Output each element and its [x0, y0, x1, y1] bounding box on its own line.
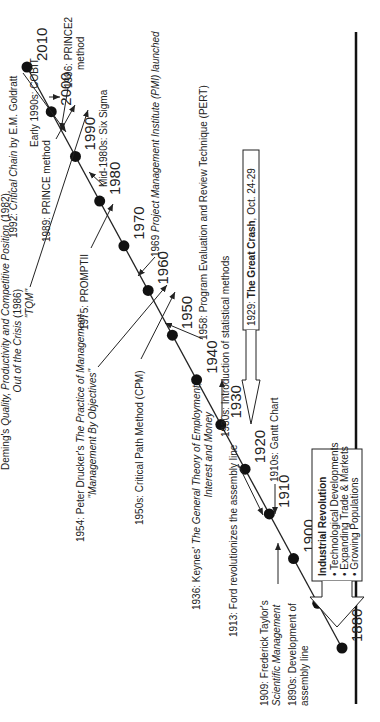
svg-text:1930s: Introduction of statist: 1930s: Introduction of statistical metho…: [220, 256, 231, 437]
timeline-dot-1980: [94, 196, 105, 207]
timeline-dot-1960: [143, 285, 154, 296]
event-taylor: 1909: Frederick Taylor's Scientific Mana…: [259, 543, 282, 706]
event-great-crash: 1929: The Great Crash, Oct. 24-29: [242, 150, 260, 424]
timeline-dot-1880: [337, 643, 348, 654]
svg-text:1909: Frederick Taylor's: 1909: Frederick Taylor's: [259, 600, 270, 706]
timeline-dot-1970: [118, 240, 129, 251]
event-promptii: 1975: PROMPTII: [79, 204, 113, 330]
svg-text:1913: Ford revolutionizes the: 1913: Ford revolutionizes the assembly l…: [228, 444, 239, 637]
svg-text:Early 1990s: COBIT: Early 1990s: COBIT: [29, 58, 40, 147]
svg-text:Mid-1980s: Six Sigma: Mid-1980s: Six Sigma: [98, 89, 109, 187]
svg-text:"TQM": "TQM": [24, 289, 35, 319]
timeline-dot-1950: [167, 330, 178, 341]
svg-text:1954: Peter Drucker's The Prac: 1954: Peter Drucker's The Practice of Ma…: [75, 313, 86, 542]
svg-text:1890s: Development of: 1890s: Development of: [287, 603, 298, 706]
svg-text:1989: PRINCE method: 1989: PRINCE method: [41, 140, 52, 242]
svg-text:"Management By Objectives": "Management By Objectives": [87, 369, 98, 499]
svg-text:1936: Keynes' The General Theo: 1936: Keynes' The General Theory of Empl…: [191, 382, 202, 610]
event-assembly-line: 1890s: Development of assembly line: [287, 603, 310, 706]
timeline-dot-1910: [264, 508, 275, 519]
svg-text:1996: PRINCE2: 1996: PRINCE2: [63, 16, 74, 88]
timeline-dot-1900: [288, 553, 299, 564]
svg-text:Interest and Money: Interest and Money: [203, 411, 214, 498]
svg-text:1975: PROMPTII: 1975: PROMPTII: [79, 254, 90, 330]
event-keynes: 1936: Keynes' The General Theory of Empl…: [191, 380, 222, 610]
year-label-1920: 1920: [251, 430, 268, 463]
svg-text:Scientific Management: Scientific Management: [271, 604, 282, 706]
svg-text:1950s: Critical Path Method (C: 1950s: Critical Path Method (CPM): [134, 370, 145, 525]
svg-text:Out of the Crisis (1986): Out of the Crisis (1986): [12, 289, 23, 392]
svg-text:1929: The Great Crash, Oct. 24: 1929: The Great Crash, Oct. 24-29: [246, 168, 257, 326]
event-prince: 1989: PRINCE method: [41, 105, 75, 242]
event-industrial-revolution: Industrial Revolution • Technological De…: [310, 443, 364, 627]
event-statistical-methods: 1930s: Introduction of statistical metho…: [220, 256, 231, 437]
svg-text:1910s: Gantt Chart: 1910s: Gantt Chart: [269, 397, 280, 482]
event-prince2: 1996: PRINCE2 method: [61, 16, 86, 130]
svg-text:• Growing Populations: • Growing Populations: [349, 477, 360, 576]
svg-text:1958: Program Evaluation and R: 1958: Program Evaluation and Review Tech…: [198, 85, 209, 340]
timeline-dot-1920: [240, 464, 251, 475]
year-label-1950: 1950: [178, 296, 195, 329]
year-label-1970: 1970: [130, 206, 147, 239]
svg-text:method: method: [75, 37, 86, 70]
management-history-timeline: 1880189019001910192019301940195019601970…: [0, 0, 380, 722]
year-label-1880: 1880: [348, 609, 365, 642]
year-label-2010: 2010: [33, 28, 50, 61]
year-label-1940: 1940: [203, 340, 220, 373]
svg-text:Industrial Revolution: Industrial Revolution: [317, 477, 328, 576]
svg-text:1969 Project Management Instit: 1969 Project Management Institute (PMI) …: [150, 31, 161, 257]
svg-text:1992: Critical Chain by E.M. G: 1992: Critical Chain by E.M. Goldratt: [8, 75, 19, 238]
svg-text:assembly line: assembly line: [299, 645, 310, 706]
event-cpm: 1950s: Critical Path Method (CPM): [134, 292, 175, 525]
